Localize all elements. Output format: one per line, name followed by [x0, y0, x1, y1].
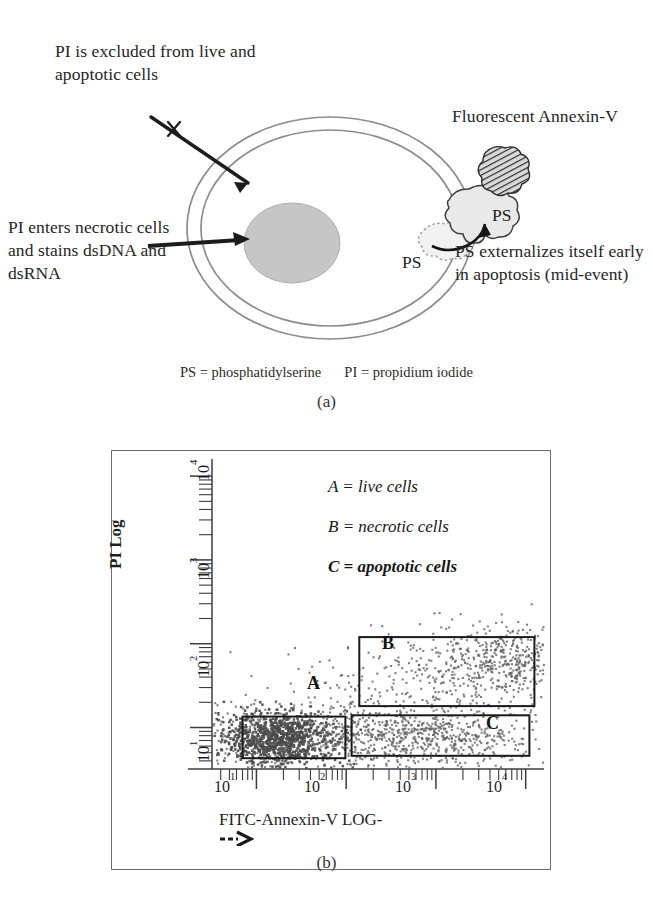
panel-a-sublabel: (a)	[0, 392, 653, 412]
y-axis-title: PI Log	[106, 519, 126, 569]
data-points-layer	[213, 603, 545, 769]
annotation-pi-enters: PI enters necrotic cells and stains dsDN…	[8, 216, 178, 285]
panel-b-flow-cytometry: PI Log 104 103 102 101 101 102 103 104 F…	[0, 425, 653, 897]
ps-label-external: PS	[492, 205, 511, 226]
y-tick-label-10e3: 103	[194, 558, 213, 579]
ps-label-internal: PS	[402, 252, 421, 273]
x-axis-title: FITC-Annexin-V LOG-	[219, 810, 383, 846]
x-axis-arrow-icon	[220, 830, 254, 846]
annotation-fluorescent-annexin: Fluorescent Annexin-V	[452, 105, 642, 128]
x-tick-label-10e1: 101	[214, 777, 235, 796]
abbreviation-legend: PS = phosphatidylserine PI = propidium i…	[0, 364, 653, 381]
x-tick-label-10e4: 104	[486, 777, 507, 796]
y-axis-ticks	[190, 476, 212, 761]
y-tick-label-10e4: 104	[194, 460, 213, 481]
x-tick-label-10e3: 103	[395, 777, 416, 796]
y-tick-label-10e1: 101	[194, 741, 213, 762]
legend-item-a: A = live cells	[328, 477, 418, 497]
x-tick-label-10e2: 102	[304, 777, 325, 796]
annotation-pi-excluded: PI is excluded from live and apoptotic c…	[55, 40, 270, 86]
plot-outer-frame: PI Log 104 103 102 101 101 102 103 104 F…	[111, 450, 551, 870]
y-tick-label-10e2: 102	[194, 656, 213, 677]
gate-label-c: C	[486, 713, 499, 734]
gate-label-b: B	[382, 633, 394, 654]
panel-b-sublabel: (b)	[0, 853, 653, 873]
legend-item-b: B = necrotic cells	[328, 517, 449, 537]
legend-item-c: C = apoptotic cells	[328, 557, 457, 577]
pi-excluded-arrowhead	[234, 182, 248, 193]
pi-excluded-arrow	[151, 117, 248, 183]
annotation-ps-externalizes: PS externalizes itself early in apoptosi…	[455, 240, 653, 286]
scatter-plot-svg	[112, 451, 549, 868]
gate-label-a: A	[307, 673, 320, 694]
cell-nucleus	[244, 203, 340, 283]
definition-pi: PI = propidium iodide	[344, 364, 473, 380]
figure-root: PI is excluded from live and apoptotic c…	[0, 0, 653, 897]
annexin-v-protein	[478, 147, 529, 196]
panel-a-cell-diagram: PI is excluded from live and apoptotic c…	[0, 0, 653, 425]
definition-ps: PS = phosphatidylserine	[180, 364, 321, 380]
x-axis-ticks	[221, 769, 526, 789]
